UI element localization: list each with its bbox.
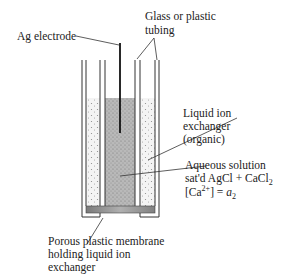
membrane-label-line3: exchanger (48, 261, 95, 274)
ion-exchanger-label-line3: (organic) (183, 133, 225, 146)
tubing-label-line1: Glass or plastic (145, 10, 216, 23)
bottom-cap (82, 213, 159, 217)
tubing-label-line2: tubing (145, 24, 174, 37)
aqueous-label-line3: [Ca2+] = a2 (185, 186, 236, 199)
ion-exchanger-label-line1: Liquid ion (183, 107, 231, 120)
membrane-label-line2: holding liquid ion (48, 248, 130, 261)
aqueous-label-line2: sat'd AgCl + CaCl2 (185, 172, 273, 185)
porous-membrane (86, 206, 155, 213)
aqueous-label-line1: Aqueous solution (185, 159, 266, 172)
ag-electrode-label: Ag electrode (17, 30, 76, 43)
membrane-label-line1: Porous plastic membrane (48, 235, 164, 248)
ion-exchanger-label-line2: exchanger (183, 120, 230, 133)
